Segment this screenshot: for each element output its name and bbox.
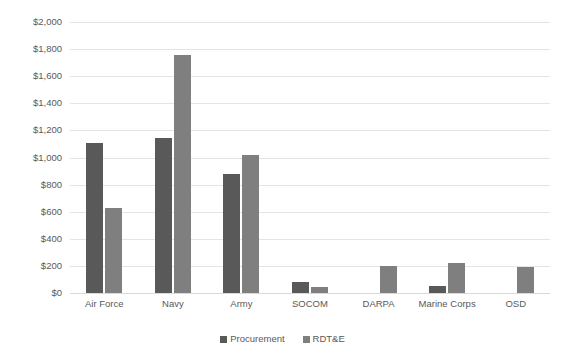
legend-swatch-icon	[303, 336, 310, 343]
gridline	[70, 293, 550, 294]
bar-group	[86, 22, 122, 293]
bar-rdt-e	[448, 263, 465, 293]
x-axis-labels: Air ForceNavyArmySOCOMDARPAMarine CorpsO…	[70, 298, 550, 314]
x-axis-label: Navy	[139, 298, 208, 309]
x-axis-label: Marine Corps	[413, 298, 482, 309]
bar-procurement	[86, 143, 103, 293]
x-axis-label: Air Force	[70, 298, 139, 309]
y-axis-labels: $2,000$1,800$1,600$1,400$1,200$1,000$800…	[0, 0, 64, 361]
y-axis-tick-label: $1,200	[0, 125, 62, 135]
y-axis-tick-label: $600	[0, 207, 62, 217]
y-axis-tick-label: $1,800	[0, 44, 62, 54]
bar-group	[223, 22, 259, 293]
plot-area	[70, 22, 550, 293]
bar-rdt-e	[380, 266, 397, 293]
bar-group	[429, 22, 465, 293]
bar-group	[155, 22, 191, 293]
bar-group	[292, 22, 328, 293]
bar-procurement	[429, 286, 446, 293]
y-axis-tick-label: $2,000	[0, 17, 62, 27]
legend-item[interactable]: Procurement	[220, 333, 284, 344]
y-axis-tick-label: $0	[0, 288, 62, 298]
y-axis-tick-label: $1,000	[0, 153, 62, 163]
x-axis-label: DARPA	[344, 298, 413, 309]
x-axis-label: SOCOM	[276, 298, 345, 309]
chart-legend: ProcurementRDT&E	[0, 333, 565, 344]
y-axis-tick-label: $1,600	[0, 71, 62, 81]
x-axis-label: Army	[207, 298, 276, 309]
bar-rdt-e	[517, 267, 534, 293]
legend-label: RDT&E	[313, 333, 345, 344]
bar-chart: $2,000$1,800$1,600$1,400$1,200$1,000$800…	[0, 0, 565, 361]
bar-group	[498, 22, 534, 293]
y-axis-tick-label: $400	[0, 234, 62, 244]
bar-rdt-e	[242, 155, 259, 293]
bar-procurement	[292, 282, 309, 293]
bar-rdt-e	[105, 208, 122, 293]
legend-swatch-icon	[220, 336, 227, 343]
bar-procurement	[223, 174, 240, 293]
y-axis-tick-label: $800	[0, 180, 62, 190]
x-axis-label: OSD	[481, 298, 550, 309]
bar-procurement	[155, 138, 172, 293]
bar-rdt-e	[311, 287, 328, 293]
clipped-title-remnant	[0, 0, 565, 2]
y-axis-tick-label: $200	[0, 261, 62, 271]
bar-group	[361, 22, 397, 293]
legend-label: Procurement	[230, 333, 284, 344]
bar-rdt-e	[174, 55, 191, 293]
y-axis-tick-label: $1,400	[0, 98, 62, 108]
legend-item[interactable]: RDT&E	[303, 333, 345, 344]
